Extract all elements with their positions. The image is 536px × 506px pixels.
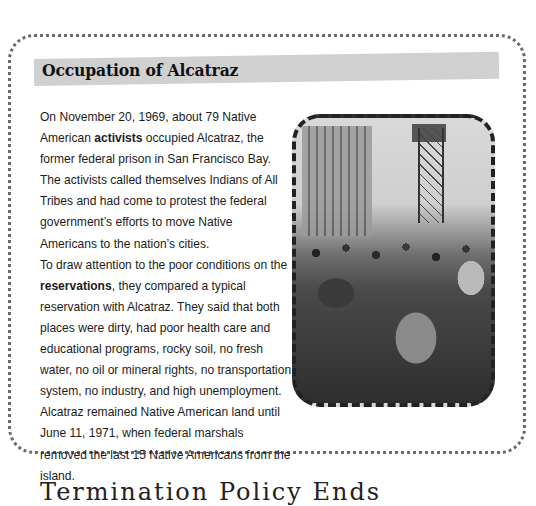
- sidebar-body: On November 20, 1969, about 79 Native Am…: [40, 106, 292, 486]
- text-run: , they compared a typical reservation wi…: [40, 278, 291, 483]
- text-run: occupied Alcatraz, the former federal pr…: [40, 130, 278, 250]
- prison-building: [302, 126, 372, 236]
- vocab-term-reservations: reservations: [40, 278, 112, 293]
- sidebar-title: Occupation of Alcatraz: [42, 60, 238, 80]
- paragraph-1: On November 20, 1969, about 79 Native Am…: [40, 106, 292, 254]
- crowd: [296, 233, 491, 407]
- next-section-heading: Termination Policy Ends: [40, 478, 381, 506]
- vocab-term-activists: activists: [94, 130, 142, 145]
- paragraph-2: To draw attention to the poor conditions…: [40, 254, 292, 486]
- text-run: To draw attention to the poor conditions…: [40, 257, 287, 272]
- guard-tower: [418, 128, 444, 223]
- alcatraz-occupation-photo: [292, 114, 495, 407]
